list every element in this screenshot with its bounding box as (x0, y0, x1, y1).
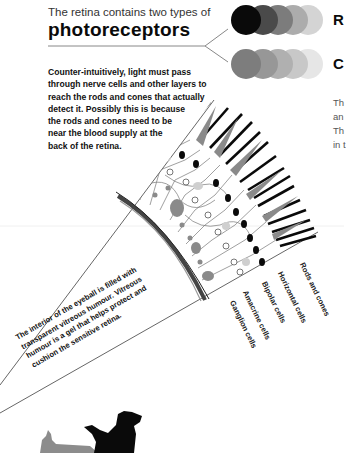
dog-silhouette-icon (84, 411, 142, 453)
cat-silhouette-icon (40, 430, 98, 453)
